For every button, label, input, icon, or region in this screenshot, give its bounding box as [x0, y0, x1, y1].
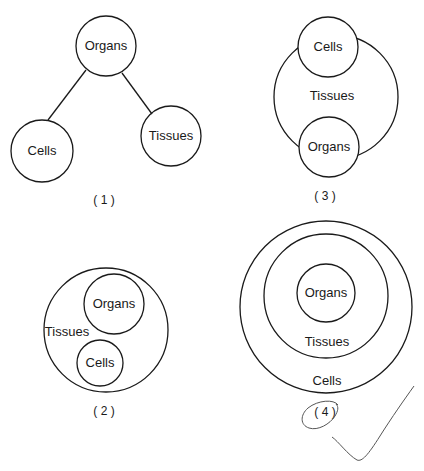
- organs-label: Organs: [308, 139, 351, 154]
- tissues-label: Tissues: [310, 88, 355, 103]
- caption-4: ( 4 ): [314, 405, 335, 419]
- caption-1: ( 1 ): [93, 193, 114, 207]
- caption-2: ( 2 ): [93, 404, 114, 418]
- tissues-label: Tissues: [305, 334, 350, 349]
- cells-label: Cells: [86, 355, 115, 370]
- diagram-3: Cells Tissues Organs ( 3 ): [274, 17, 398, 203]
- cells-label: Cells: [28, 143, 57, 158]
- diagram-canvas: Organs Cells Tissues ( 1 ) Cells Tissues…: [0, 0, 424, 471]
- diagram-4: Organs Tissues Cells ( 4 ): [240, 221, 414, 460]
- cells-label: Cells: [314, 39, 343, 54]
- cells-circle: [240, 221, 412, 393]
- organs-label: Organs: [85, 38, 128, 53]
- caption-3: ( 3 ): [314, 189, 335, 203]
- edge-organs-cells: [48, 70, 86, 120]
- cells-label: Cells: [313, 373, 342, 388]
- diagram-1: Organs Cells Tissues ( 1 ): [11, 16, 201, 207]
- checkmark-icon: [332, 386, 414, 460]
- organs-label: Organs: [305, 285, 348, 300]
- tissues-label: Tissues: [45, 324, 90, 339]
- tissues-label: Tissues: [149, 128, 194, 143]
- diagram-2: Organs Tissues Cells ( 2 ): [44, 268, 168, 418]
- edge-organs-tissues: [122, 73, 152, 114]
- organs-label: Organs: [93, 296, 136, 311]
